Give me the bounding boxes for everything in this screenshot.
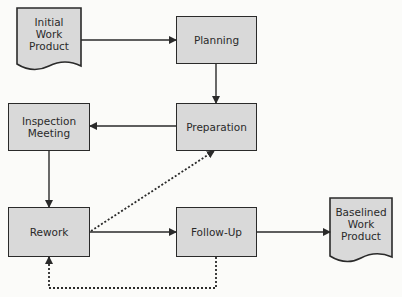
baselined-line-3: Product — [335, 230, 386, 242]
initial-line-2: Work — [29, 28, 69, 40]
followup-label: Follow-Up — [191, 226, 242, 238]
inspection-line-2: Meeting — [22, 127, 76, 139]
edge-followup-rework-dotted — [49, 257, 216, 288]
node-preparation: Preparation — [176, 103, 257, 151]
node-planning: Planning — [176, 16, 257, 64]
planning-label: Planning — [194, 34, 239, 46]
rework-label: Rework — [30, 226, 69, 238]
node-initial-work-product: Initial Work Product — [17, 10, 81, 58]
node-inspection-meeting: Inspection Meeting — [8, 103, 90, 151]
preparation-label: Preparation — [186, 121, 247, 133]
initial-line-3: Product — [29, 40, 69, 52]
node-rework: Rework — [8, 207, 90, 257]
inspection-line-1: Inspection — [22, 115, 76, 127]
baselined-line-2: Work — [335, 218, 386, 230]
node-baselined-work-product: Baselined Work Product — [330, 200, 392, 248]
baselined-line-1: Baselined — [335, 206, 386, 218]
node-follow-up: Follow-Up — [176, 207, 257, 257]
initial-line-1: Initial — [29, 16, 69, 28]
